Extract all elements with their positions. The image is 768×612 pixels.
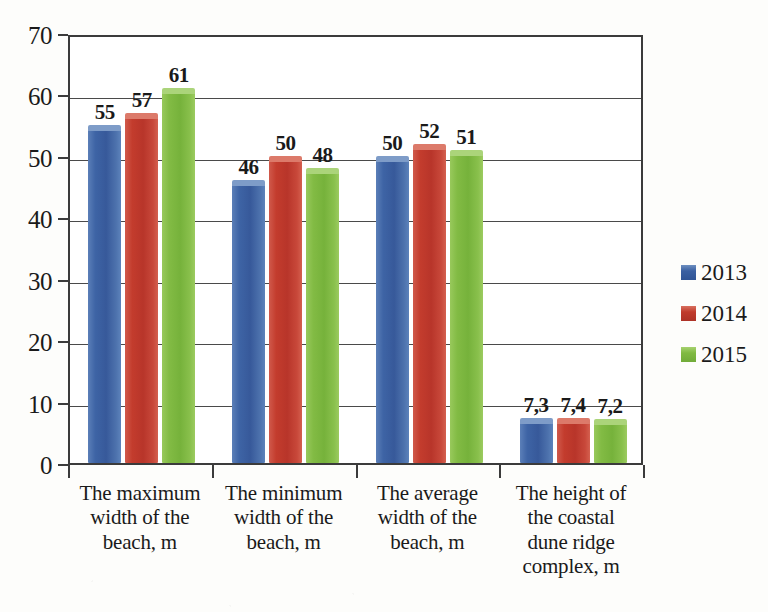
bar (125, 113, 158, 463)
bar-top-cap (232, 180, 265, 186)
bar-top-cap (594, 419, 627, 425)
category-label-line: width of the (68, 505, 212, 529)
y-axis-tick-mark (58, 95, 68, 97)
y-axis-tick-label: 20 (28, 330, 52, 355)
category-label-line: beach, m (68, 530, 212, 554)
legend-color-swatch (681, 347, 696, 362)
y-axis: 010203040506070 (0, 0, 68, 612)
bar (594, 419, 627, 463)
bars-layer: 5557614650485052517,37,47,2 (70, 37, 641, 463)
y-axis-tick-label: 10 (28, 391, 52, 416)
chart-legend: 201320142015 (681, 252, 747, 375)
bar-top-cap (557, 418, 590, 424)
bar-body (88, 129, 121, 463)
bar (162, 88, 195, 463)
bar (413, 144, 446, 463)
bar (520, 418, 553, 463)
plot-area: 5557614650485052517,37,47,2 (68, 35, 643, 465)
legend-item[interactable]: 2013 (681, 252, 747, 293)
bar-body (557, 422, 590, 463)
bar-top-cap (413, 144, 446, 150)
bar-value-label: 46 (238, 157, 258, 178)
category-label-line: The height of (499, 481, 643, 505)
bar-top-cap (520, 418, 553, 424)
bar-value-label: 51 (456, 127, 476, 148)
bar (88, 125, 121, 463)
legend-item-label: 2015 (701, 343, 747, 366)
category-label-line: width of the (212, 505, 356, 529)
legend-color-swatch (681, 265, 696, 280)
category-label-line: The average (356, 481, 500, 505)
bar-value-label: 48 (312, 145, 332, 166)
bar-value-label: 61 (169, 65, 189, 86)
bar-body (413, 148, 446, 463)
bar-body (125, 117, 158, 463)
category-label-line: beach, m (356, 530, 500, 554)
bar (232, 180, 265, 463)
x-axis-category-label: The averagewidth of thebeach, m (356, 481, 500, 554)
bar-value-label: 7,3 (523, 395, 548, 416)
bar-top-cap (162, 88, 195, 94)
category-label-line: the coastal (499, 505, 643, 529)
y-axis-tick-label: 0 (40, 453, 52, 478)
legend-item-label: 2013 (701, 261, 747, 284)
category-label-line: The minimum (212, 481, 356, 505)
bar-value-label: 50 (275, 133, 295, 154)
bar (376, 156, 409, 463)
bar-body (450, 154, 483, 463)
y-axis-tick-label: 70 (28, 23, 52, 48)
bar-chart: 010203040506070 5557614650485052517,37,4… (0, 0, 768, 612)
legend-item-label: 2014 (701, 302, 747, 325)
bar-body (269, 160, 302, 463)
category-label-line: width of the (356, 505, 500, 529)
bar-body (520, 422, 553, 463)
bar-top-cap (450, 150, 483, 156)
legend-color-swatch (681, 306, 696, 321)
bar-top-cap (269, 156, 302, 162)
y-axis-tick-label: 30 (28, 268, 52, 293)
legend-item[interactable]: 2014 (681, 293, 747, 334)
category-label-line: The maximum (68, 481, 212, 505)
y-axis-tick-mark (58, 218, 68, 220)
bar-value-label: 50 (382, 133, 402, 154)
y-axis-tick-mark (58, 34, 68, 36)
y-axis-tick-label: 50 (28, 145, 52, 170)
bar-top-cap (125, 113, 158, 119)
category-label-line: complex, m (499, 554, 643, 578)
category-label-line: beach, m (212, 530, 356, 554)
bar-value-label: 7,4 (560, 395, 585, 416)
legend-item[interactable]: 2015 (681, 334, 747, 375)
x-axis-tick-mark (356, 465, 358, 478)
bar (450, 150, 483, 463)
bar-body (376, 160, 409, 463)
y-axis-tick-mark (58, 157, 68, 159)
y-axis-tick-mark (58, 403, 68, 405)
x-axis-category-label: The height ofthe coastaldune ridgecomple… (499, 481, 643, 578)
y-axis-tick-mark (58, 464, 68, 466)
y-axis-tick-mark (58, 341, 68, 343)
bar-value-label: 57 (132, 90, 152, 111)
y-axis-tick-label: 40 (28, 207, 52, 232)
bar-body (232, 184, 265, 463)
bar-value-label: 7,2 (597, 396, 622, 417)
y-axis-tick-mark (58, 280, 68, 282)
x-axis-category-label: The minimumwidth of thebeach, m (212, 481, 356, 554)
x-axis-tick-mark (68, 465, 70, 478)
category-label-line: dune ridge (499, 530, 643, 554)
bar-body (594, 423, 627, 463)
bar (306, 168, 339, 463)
bar-body (162, 92, 195, 463)
bar-top-cap (306, 168, 339, 174)
x-axis-tick-mark (499, 465, 501, 478)
bar (269, 156, 302, 463)
bar (557, 418, 590, 463)
bar-value-label: 55 (95, 102, 115, 123)
bar-body (306, 172, 339, 463)
y-axis-tick-label: 60 (28, 84, 52, 109)
bar-value-label: 52 (419, 121, 439, 142)
x-axis-tick-mark (212, 465, 214, 478)
x-axis-tick-mark (643, 465, 645, 478)
bar-top-cap (88, 125, 121, 131)
bar-top-cap (376, 156, 409, 162)
x-axis-category-label: The maximumwidth of thebeach, m (68, 481, 212, 554)
